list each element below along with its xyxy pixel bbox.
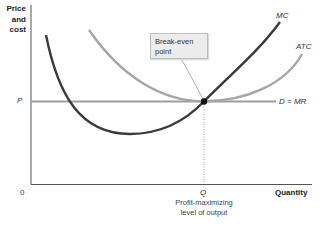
origin-label: 0 — [20, 188, 24, 197]
q-annotation-line2: level of output — [164, 208, 244, 218]
callout-leader — [182, 60, 203, 99]
x-axis-label: Quantity — [275, 188, 307, 197]
mc-curve-label: MC — [276, 11, 288, 20]
break-even-callout: Break-even point — [150, 33, 208, 59]
demand-mr-label: D = MR — [279, 97, 306, 106]
break-even-callout-text: Break-even point — [155, 37, 193, 56]
atc-curve-label: ATC — [296, 42, 311, 51]
q-annotation-line1: Profit-maximizing — [164, 198, 244, 208]
break-even-point — [201, 98, 207, 104]
y-axis-label: Price and cost — [2, 4, 26, 36]
quantity-tick-label: Q — [200, 188, 206, 197]
price-tick-label: P — [17, 96, 22, 105]
